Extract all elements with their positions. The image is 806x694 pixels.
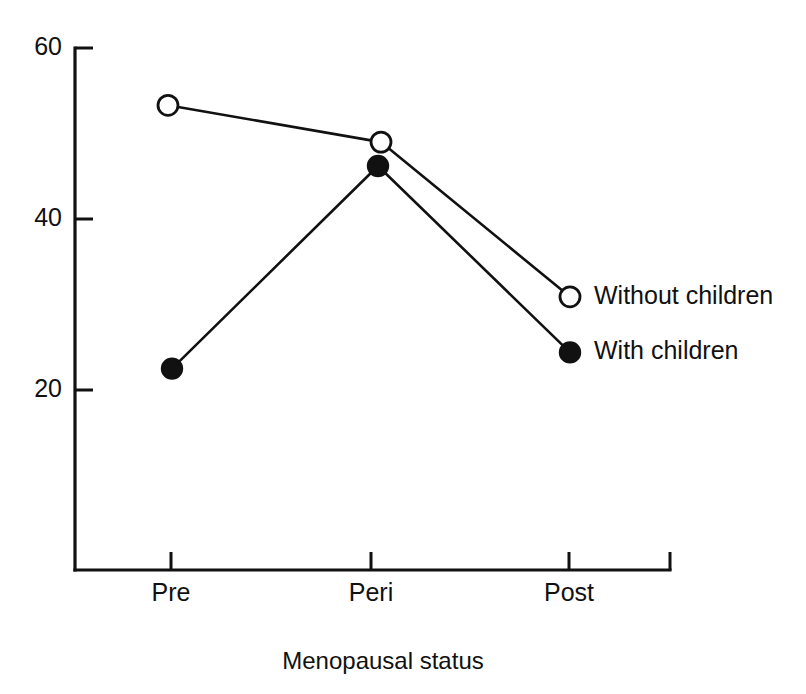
x-axis-title: Menopausal status (282, 647, 483, 674)
y-tick-label-20: 20 (34, 374, 62, 402)
data-point-without-children-pre (158, 95, 178, 115)
legend-label-with-children: With children (594, 336, 739, 364)
series-with-children (162, 156, 580, 379)
data-point-with-children-pre (162, 359, 182, 379)
data-point-without-children-post (560, 287, 580, 307)
data-point-with-children-peri (368, 156, 388, 176)
y-tick-label-40: 40 (34, 203, 62, 231)
x-tick-label-peri: Peri (349, 578, 393, 606)
data-point-with-children-post (560, 342, 580, 362)
line-chart: 60 40 20 Pre Peri Post Menopausal status… (0, 0, 806, 694)
chart-container: 60 40 20 Pre Peri Post Menopausal status… (0, 0, 806, 694)
data-point-without-children-peri (371, 132, 391, 152)
y-tick-label-60: 60 (34, 32, 62, 60)
series-line-without-children (168, 105, 570, 296)
series-without-children (158, 95, 580, 306)
legend-label-without-children: Without children (594, 281, 773, 309)
series-line-with-children (172, 166, 570, 369)
x-tick-label-post: Post (544, 578, 594, 606)
x-tick-label-pre: Pre (152, 578, 191, 606)
